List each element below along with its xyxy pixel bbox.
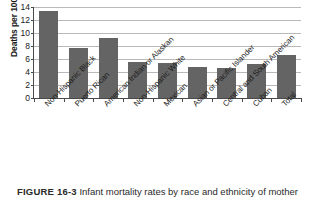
bar-chart: Deaths per 1000 live births 02468101214 … bbox=[0, 0, 309, 182]
y-tick-label: 0 bbox=[25, 93, 30, 102]
figure-container: Deaths per 1000 live births 02468101214 … bbox=[0, 0, 309, 201]
y-tick-label: 10 bbox=[21, 28, 30, 37]
y-tick-label: 8 bbox=[25, 41, 30, 50]
figure-caption-body: Infant mortality rates by race and ethni… bbox=[79, 186, 298, 197]
figure-caption-text: FIGURE 16-3 Infant mortality rates by ra… bbox=[17, 186, 298, 198]
bar-series bbox=[34, 7, 301, 98]
y-tick-label: 4 bbox=[25, 67, 30, 76]
y-tick-label: 2 bbox=[25, 80, 30, 89]
plot-area bbox=[33, 7, 301, 99]
y-tick-label: 6 bbox=[25, 54, 30, 63]
figure-caption: FIGURE 16-3 Infant mortality rates by ra… bbox=[0, 186, 309, 201]
figure-caption-label: FIGURE 16-3 bbox=[17, 186, 77, 197]
y-tick-label: 12 bbox=[21, 15, 30, 24]
y-tick-label: 14 bbox=[21, 2, 30, 11]
bar bbox=[39, 11, 58, 97]
y-axis-tick-labels: 02468101214 bbox=[14, 0, 30, 100]
x-axis-category-labels: Non-Hispanic BlackPuerto RicanAmerican I… bbox=[33, 100, 309, 182]
